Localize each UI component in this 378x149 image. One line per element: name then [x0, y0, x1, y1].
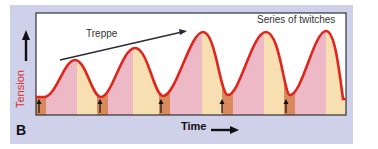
x-axis-label: Time [181, 120, 206, 132]
y-axis-label: Tension [14, 52, 26, 108]
treppe-label: Treppe [86, 28, 117, 39]
time-right-arrow-icon [211, 126, 239, 134]
series-of-twitches-label: Series of twitches [257, 14, 335, 25]
panel-letter: B [16, 122, 26, 138]
